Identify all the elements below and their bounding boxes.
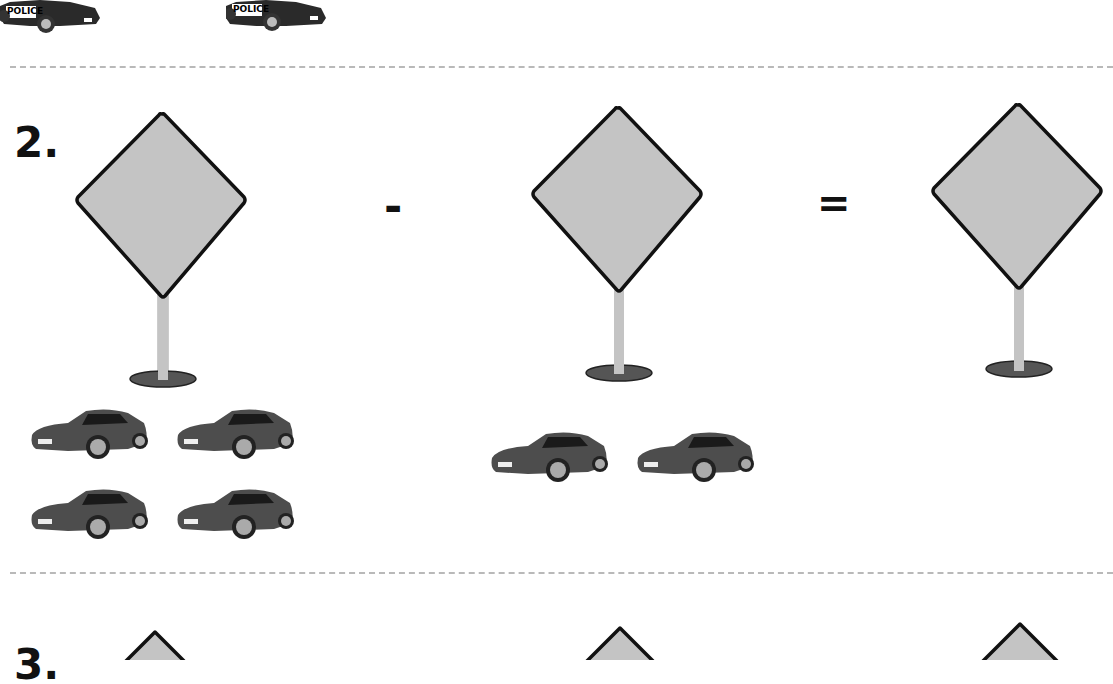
problem-number-3: 3.	[14, 640, 59, 684]
answer-sign-6[interactable]	[975, 622, 1065, 660]
section-divider-bottom	[10, 572, 1113, 574]
police-car-1: POLICE	[0, 0, 100, 36]
sports-car-icon	[174, 405, 296, 463]
car-group-a	[28, 405, 298, 545]
answer-sign-4[interactable]	[110, 630, 200, 660]
answer-sign-2[interactable]	[528, 104, 708, 384]
answer-sign-3[interactable]	[930, 101, 1110, 381]
sports-car-icon	[634, 428, 756, 486]
answer-sign-1[interactable]	[72, 110, 252, 390]
police-car-2: POLICE	[226, 0, 326, 36]
section-divider-top	[10, 66, 1113, 68]
minus-operator: -	[384, 185, 402, 229]
police-label: POLICE	[233, 4, 269, 14]
sports-car-icon	[28, 485, 150, 543]
answer-sign-5[interactable]	[575, 626, 665, 660]
car-group-b	[488, 428, 758, 488]
problem-number-2: 2.	[14, 118, 59, 167]
police-label: POLICE	[7, 6, 43, 16]
sports-car-icon	[488, 428, 610, 486]
sports-car-icon	[174, 485, 296, 543]
equals-operator: =	[817, 183, 851, 223]
sports-car-icon	[28, 405, 150, 463]
